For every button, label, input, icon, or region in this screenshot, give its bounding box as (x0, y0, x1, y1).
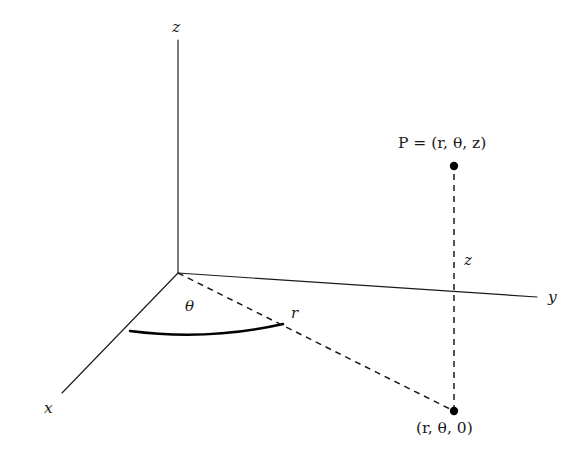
height-label: z (464, 253, 472, 268)
theta-arc (130, 324, 283, 335)
point-p-dot (450, 162, 458, 170)
y-axis-label: y (548, 290, 557, 306)
diagram-canvas (0, 0, 583, 456)
cylindrical-coordinates-diagram: z y x θ r z P = (r, θ, z) (r, θ, 0) (0, 0, 583, 456)
radius-label: r (291, 306, 298, 321)
theta-angle-label: θ (185, 299, 194, 314)
y-axis-line (178, 273, 537, 297)
radial-ray-dashed-line (178, 273, 454, 411)
x-axis-label: x (44, 401, 53, 417)
projection-point-label: (r, θ, 0) (416, 421, 473, 437)
point-p-label: P = (r, θ, z) (398, 136, 486, 152)
z-axis-label: z (172, 20, 180, 36)
projection-point-dot (450, 407, 458, 415)
